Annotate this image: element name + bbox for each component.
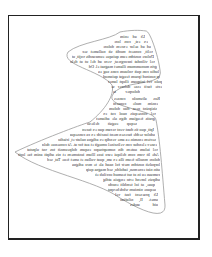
text-line: sequp eugait deliesu [87, 121, 137, 126]
text-line-content: sequp eugait deliesu [87, 121, 137, 126]
text-line: dolorper ia [113, 89, 140, 94]
text-line-content: uid andes [130, 202, 158, 207]
text-line: uid andes [130, 202, 158, 207]
text-line-content: dolorper ia [113, 89, 140, 94]
